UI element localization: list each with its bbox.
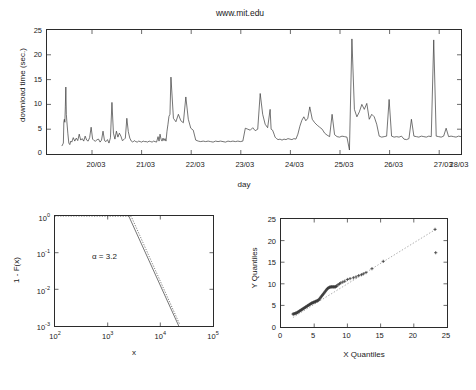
qq-ylabel: Y Quantiles: [250, 228, 259, 308]
qq-plot-area: [281, 219, 447, 327]
ts-xtick-5: 25/03: [324, 160, 364, 169]
panel-tail-distribution: 100 10-1 10-2 10-3 1 - F(x) α: [0, 200, 238, 390]
timeseries-title: www.mit.edu: [160, 8, 320, 18]
tail-axes: [54, 215, 214, 327]
ts-xtick-6: 26/03: [374, 160, 414, 169]
timeseries-xlabel: day: [214, 180, 274, 189]
tail-empirical-curve: [55, 216, 180, 325]
tail-plot-area: [55, 216, 213, 326]
tail-ylabel: 1 - F(x): [12, 235, 21, 305]
qq-ytick-5: 5: [256, 301, 276, 310]
timeseries-plot-area: [47, 30, 461, 154]
tail-alpha-annotation: α = 3.2: [92, 252, 117, 261]
tail-xtick-4: 104: [147, 330, 173, 341]
tail-ytick-0: 100: [24, 212, 50, 223]
qq-ytick-20: 20: [256, 237, 276, 246]
tail-ytick-m1: 10-1: [24, 248, 50, 259]
panel-qq-plot: 0 5 10 15 20 25 Y Quantiles: [238, 200, 476, 390]
qq-xtick-10: 10: [336, 331, 356, 340]
qq-reference-line: [293, 229, 437, 318]
timeseries-axes: [46, 29, 462, 155]
tail-xlabel: x: [114, 348, 154, 357]
qq-xtick-5: 5: [303, 331, 323, 340]
tail-ytick-m2: 10-2: [24, 285, 50, 296]
ts-xtick-4: 24/03: [274, 160, 314, 169]
tail-ticks: [55, 216, 213, 326]
qq-axes: [280, 218, 448, 328]
qq-xtick-15: 15: [370, 331, 390, 340]
panel-timeseries: www.mit.edu 0 5 10 15 20 25 download tim…: [0, 0, 476, 200]
ts-xtick-3: 23/03: [225, 160, 265, 169]
qq-ytick-10: 10: [256, 280, 276, 289]
ts-ytick-0: 0: [24, 148, 42, 157]
qq-ytick-25: 25: [256, 215, 276, 224]
qq-xtick-0: 0: [270, 331, 290, 340]
timeseries-trace: [62, 39, 461, 150]
ts-xtick-8: 28/03: [442, 160, 476, 169]
ts-xtick-0: 20/03: [76, 160, 116, 169]
tail-xtick-5: 105: [200, 330, 226, 341]
tail-xtick-3: 103: [95, 330, 121, 341]
qq-ytick-15: 15: [256, 258, 276, 267]
ts-xtick-1: 21/03: [126, 160, 166, 169]
tail-powerlaw-fit: [129, 216, 179, 326]
ts-xtick-2: 22/03: [175, 160, 215, 169]
figure-canvas: www.mit.edu 0 5 10 15 20 25 download tim…: [0, 0, 476, 390]
timeseries-ylabel: download time (sec.): [18, 30, 27, 140]
qq-data-markers: [291, 228, 437, 316]
tail-xtick-2: 102: [42, 330, 68, 341]
qq-ticks: [281, 219, 447, 327]
qq-xlabel: X Quantiles: [324, 350, 404, 359]
qq-xtick-25: 25: [436, 331, 456, 340]
qq-xtick-20: 20: [403, 331, 423, 340]
timeseries-ticks: [47, 30, 461, 154]
